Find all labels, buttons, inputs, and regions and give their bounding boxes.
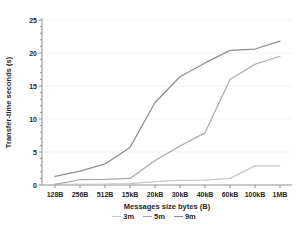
- legend-label-3m: 3m: [123, 212, 134, 221]
- legend-swatch-3m: [112, 216, 121, 217]
- x-tick-label: 1MB: [273, 191, 288, 198]
- legend-label-9m: 9m: [185, 212, 196, 221]
- x-tick-label: 100kB: [245, 191, 266, 198]
- series-line-5m: [55, 56, 280, 184]
- x-tick-label: 30kB: [172, 191, 189, 198]
- legend-swatch-5m: [143, 216, 152, 217]
- x-tick-label: 40kB: [197, 191, 214, 198]
- x-tick-label: 20kB: [147, 191, 164, 198]
- y-tick-label: 20: [29, 50, 37, 57]
- y-tick-label: 10: [29, 116, 37, 123]
- x-tick-label: 60kB: [222, 191, 239, 198]
- y-tick-label: 5: [33, 149, 37, 156]
- x-tick-label: 512B: [97, 191, 114, 198]
- chart-plot-area: 0510152025128B256B512B15kB20kB30kB40kB60…: [0, 0, 308, 212]
- legend-item-3m: 3m: [112, 212, 134, 221]
- y-tick-label: 25: [29, 17, 37, 24]
- series-line-9m: [55, 41, 280, 176]
- legend-item-5m: 5m: [143, 212, 165, 221]
- x-axis-title: Messages size bytes (B): [124, 202, 211, 211]
- y-tick-label: 15: [29, 83, 37, 90]
- x-tick-label: 256B: [72, 191, 89, 198]
- legend-label-5m: 5m: [154, 212, 165, 221]
- y-tick-label: 0: [33, 182, 37, 189]
- transfer-time-chart: 0510152025128B256B512B15kB20kB30kB40kB60…: [0, 0, 308, 236]
- chart-legend: 3m5m9m: [0, 212, 308, 221]
- legend-swatch-9m: [174, 216, 183, 217]
- y-axis-title: Transfer-time seconds (s): [4, 56, 13, 148]
- legend-item-9m: 9m: [174, 212, 196, 221]
- x-tick-label: 15kB: [122, 191, 139, 198]
- x-tick-label: 128B: [47, 191, 64, 198]
